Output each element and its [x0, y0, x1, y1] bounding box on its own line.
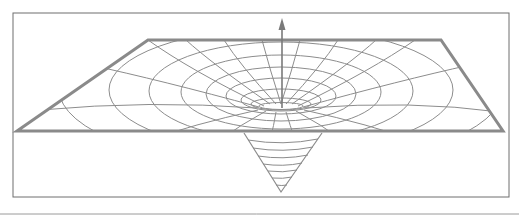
spacetime-grid: [40, 11, 503, 167]
diagram-canvas: [0, 0, 519, 222]
funnel-cone: [244, 133, 322, 192]
gravity-well-diagram: [0, 0, 519, 222]
